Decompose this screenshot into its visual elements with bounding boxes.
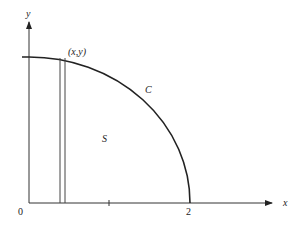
x-axis-label: x bbox=[282, 197, 288, 208]
y-axis-label: y bbox=[25, 8, 31, 19]
diagram-canvas: y x 0 2 (x,y) C S bbox=[0, 0, 292, 229]
curve-label: C bbox=[145, 84, 152, 95]
x-tick-label-2: 2 bbox=[186, 206, 191, 217]
origin-label: 0 bbox=[18, 206, 23, 217]
point-label: (x,y) bbox=[68, 46, 87, 58]
curve-c bbox=[22, 57, 190, 203]
diagram-figure: y x 0 2 (x,y) C S bbox=[0, 0, 292, 229]
region-label: S bbox=[102, 133, 107, 144]
